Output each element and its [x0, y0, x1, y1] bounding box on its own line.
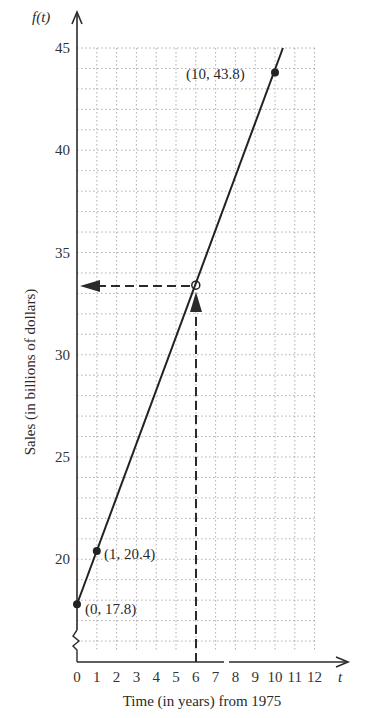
x-axis-symbol: t	[338, 669, 343, 685]
y-axis-label: Sales (in billions of dollars)	[22, 289, 39, 456]
x-axis-ticks: 0123456789101112	[73, 669, 322, 685]
x-tick-label: 11	[288, 669, 302, 685]
y-tick-label: 30	[55, 347, 70, 363]
x-tick-label: 1	[93, 669, 101, 685]
x-tick-label: 8	[232, 669, 240, 685]
y-tick-label: 45	[55, 40, 70, 56]
x-tick-label: 12	[307, 669, 322, 685]
point-label-2: (10, 43.8)	[186, 66, 245, 83]
sales-series	[73, 48, 283, 608]
y-axis	[72, 12, 82, 662]
x-tick-label: 9	[251, 669, 259, 685]
sales-line-chart: 202530354045 0123456789101112 f(t) t Tim…	[0, 0, 368, 718]
y-tick-label: 40	[55, 142, 70, 158]
data-point	[73, 600, 81, 608]
y-tick-label: 20	[55, 551, 70, 567]
left-arrow-icon	[80, 280, 100, 292]
y-tick-label: 35	[55, 245, 70, 261]
x-tick-label: 4	[152, 669, 160, 685]
x-tick-label: 0	[73, 669, 81, 685]
x-tick-label: 10	[268, 669, 283, 685]
axis-break-icon	[73, 630, 79, 662]
point-label-0: (0, 17.8)	[85, 601, 136, 618]
sales-line	[77, 48, 283, 604]
x-tick-label: 3	[133, 669, 141, 685]
y-axis-symbol: f(t)	[32, 9, 50, 26]
y-axis-ticks: 202530354045	[55, 40, 70, 567]
data-point	[93, 547, 101, 555]
data-point	[271, 69, 279, 77]
x-axis-label: Time (in years) from 1975	[123, 693, 282, 710]
x-tick-label: 2	[113, 669, 121, 685]
x-tick-label: 5	[172, 669, 180, 685]
x-tick-label: 7	[212, 669, 220, 685]
x-tick-label: 6	[192, 669, 200, 685]
y-tick-label: 25	[55, 449, 70, 465]
x-axis	[77, 657, 348, 667]
point-label-1: (1, 20.4)	[104, 546, 155, 563]
